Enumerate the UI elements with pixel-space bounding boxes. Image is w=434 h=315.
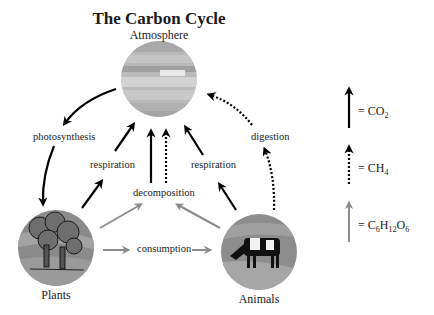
photosynthesis-arrow-lower xyxy=(43,146,54,203)
legend-co2-label: = CO2 xyxy=(358,104,388,119)
plants-label: Plants xyxy=(16,288,96,303)
consumption-label: consumption xyxy=(136,243,192,254)
digestion-arrow-upper xyxy=(210,95,252,125)
respiration-plants-arrow-lower xyxy=(82,182,101,208)
legend-ch4-label: = CH4 xyxy=(358,161,388,176)
animals-label: Animals xyxy=(219,292,299,307)
respiration-animals-arrow-upper xyxy=(186,128,203,155)
legend-glucose-label: = C6H12O6 xyxy=(358,218,409,233)
digestion-label: digestion xyxy=(250,131,291,142)
atmosphere-image xyxy=(120,40,200,121)
plants-to-decomposition-arrow xyxy=(100,205,140,228)
diagram-title: The Carbon Cycle xyxy=(0,9,318,29)
plants-image xyxy=(15,208,97,290)
respiration-animals-label: respiration xyxy=(190,159,237,170)
animals-image xyxy=(220,213,300,293)
respiration-plants-arrow-upper xyxy=(115,125,133,151)
photosynthesis-label: photosynthesis xyxy=(32,131,96,142)
animals-to-decomposition-arrow xyxy=(178,205,220,228)
atmosphere-label: Atmosphere xyxy=(119,28,199,43)
respiration-animals-arrow-lower xyxy=(220,185,236,210)
respiration-plants-label: respiration xyxy=(89,159,136,170)
carbon-cycle-diagram xyxy=(0,0,434,315)
photosynthesis-arrow-upper xyxy=(65,89,116,123)
decomposition-label: decomposition xyxy=(132,187,196,198)
digestion-arrow-lower xyxy=(265,150,274,210)
